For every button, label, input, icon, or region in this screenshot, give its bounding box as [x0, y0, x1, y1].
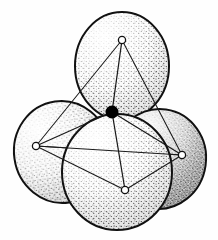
vertex-atom-left: [32, 142, 39, 149]
vertex-atom-right: [178, 151, 185, 158]
sphere-front: [62, 114, 172, 230]
tetrahedral-model-figure: [0, 0, 218, 240]
sphere-top-stipple-dense: [76, 13, 168, 119]
vertex-atom-top: [118, 36, 125, 43]
tetrahedral-diagram-canvas: [0, 0, 218, 240]
vertex-atom-bottom-front: [121, 186, 128, 193]
central-atom: [106, 106, 119, 119]
